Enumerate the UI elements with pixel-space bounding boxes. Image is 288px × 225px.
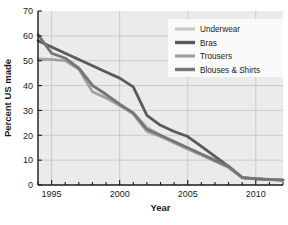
y-axis-title: Percent US made (2, 59, 13, 137)
y-axis-tick-label: 10 (23, 155, 33, 165)
x-axis-title: Year (150, 202, 170, 213)
y-axis-tick-label: 40 (23, 81, 33, 91)
y-axis-tick-label: 30 (23, 106, 33, 116)
legend-label: Underwear (200, 25, 240, 34)
legend-label: Bras (200, 39, 217, 48)
y-axis-tick-label: 0 (28, 180, 33, 190)
x-axis-tick-label: 2000 (110, 189, 130, 199)
y-axis-tick-label: 70 (23, 6, 33, 16)
legend-label: Trousers (200, 52, 232, 61)
legend-label: Blouses & Shirts (200, 66, 260, 75)
line-chart: 0102030405060701995200020052010YearPerce… (0, 0, 288, 225)
y-axis-tick-label: 20 (23, 131, 33, 141)
x-axis-tick-label: 2010 (246, 189, 266, 199)
x-axis-tick-label: 1995 (42, 189, 62, 199)
y-axis-tick-label: 50 (23, 56, 33, 66)
chart-container: 0102030405060701995200020052010YearPerce… (0, 0, 288, 225)
x-axis-tick-label: 2005 (178, 189, 198, 199)
y-axis-tick-label: 60 (23, 31, 33, 41)
